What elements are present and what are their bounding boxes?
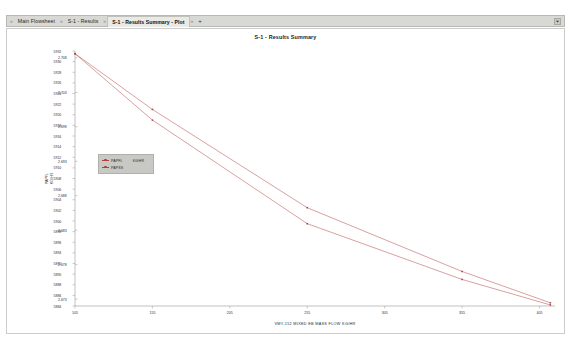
svg-text:5906: 5906 (54, 188, 62, 192)
legend-item: PAPFL KG/HR (102, 157, 150, 164)
svg-text:5900: 5900 (54, 220, 62, 224)
tab-s1-results[interactable]: S-1 - Results (64, 16, 103, 26)
svg-text:5914: 5914 (54, 145, 62, 149)
svg-text:5890: 5890 (54, 273, 62, 277)
svg-text:VMY-152 MIXED EB MASS FLOW: VMY-152 MIXED EB MASS FLOW KG/HR (274, 322, 355, 326)
svg-text:5928: 5928 (54, 71, 62, 75)
chart-axes (75, 51, 555, 306)
svg-text:2.678: 2.678 (58, 263, 67, 267)
axis-titles: VMY-152 MIXED EB MASS FLOW KG/HRPAPFLKG/… (45, 172, 356, 326)
svg-text:5902: 5902 (54, 209, 62, 213)
svg-text:2.703: 2.703 (58, 91, 67, 95)
svg-text:5922: 5922 (54, 103, 62, 107)
svg-text:5926: 5926 (54, 81, 62, 85)
svg-text:2.708: 2.708 (58, 56, 67, 60)
svg-text:2.698: 2.698 (58, 125, 67, 129)
tab-bar: » Main Flowsheet » S-1 - Results » S-1 -… (6, 15, 565, 27)
svg-text:PAPFL: PAPFL (45, 173, 49, 184)
svg-text:5884: 5884 (54, 305, 62, 309)
svg-text:5888: 5888 (54, 283, 62, 287)
legend-swatch-icon (102, 158, 109, 163)
svg-text:5908: 5908 (54, 177, 62, 181)
svg-text:305: 305 (382, 311, 388, 315)
svg-text:355: 355 (459, 311, 465, 315)
svg-text:105: 105 (72, 311, 78, 315)
chevron-down-icon[interactable] (554, 18, 561, 25)
svg-text:5916: 5916 (54, 135, 62, 139)
svg-text:155: 155 (149, 311, 155, 315)
chart-canvas: 5932593059285926592459225920591859165914… (7, 29, 564, 333)
chart-series (74, 53, 551, 306)
x-axis-ticks: 105155205255305355405 (72, 306, 543, 315)
svg-text:2.683: 2.683 (58, 229, 67, 233)
svg-text:255: 255 (304, 311, 310, 315)
legend-item: PAPSS (102, 164, 150, 171)
legend-label: PAPFL (111, 159, 123, 163)
svg-text:5930: 5930 (54, 60, 62, 64)
chart-legend[interactable]: PAPFL KG/HR PAPSS (98, 154, 154, 174)
plot-panel: S-1 - Results Summary 593259305928592659… (6, 28, 565, 334)
tab-main-flowsheet[interactable]: Main Flowsheet (14, 16, 59, 26)
add-tab-button[interactable]: + (194, 18, 206, 24)
legend-units: KG/HR (133, 159, 144, 163)
svg-text:2.673: 2.673 (58, 298, 67, 302)
svg-text:5932: 5932 (54, 50, 62, 54)
svg-text:2.688: 2.688 (58, 194, 67, 198)
svg-text:5904: 5904 (54, 198, 62, 202)
svg-text:405: 405 (537, 311, 543, 315)
y-axis-left-ticks: 5932593059285926592459225920591859165914… (54, 50, 76, 309)
legend-label: PAPSS (111, 166, 123, 170)
svg-text:5920: 5920 (54, 113, 62, 117)
svg-text:5894: 5894 (54, 251, 62, 255)
svg-text:2.693: 2.693 (58, 160, 67, 164)
svg-text:5896: 5896 (54, 241, 62, 245)
legend-swatch-icon (102, 165, 109, 170)
window-top-strip (0, 0, 571, 14)
application-window: » Main Flowsheet » S-1 - Results » S-1 -… (0, 0, 571, 341)
svg-text:205: 205 (227, 311, 233, 315)
tab-s1-results-summary-plot[interactable]: S-1 - Results Summary - Plot (107, 16, 189, 27)
svg-text:KG/HR: KG/HR (50, 172, 54, 184)
svg-text:5910: 5910 (54, 166, 62, 170)
